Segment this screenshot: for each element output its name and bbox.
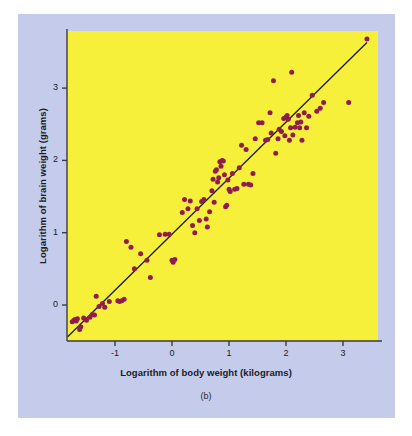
x-tick-label: 2 <box>276 348 296 358</box>
figure-caption: (b) <box>0 391 412 401</box>
figure-root: Logarithm of body weight (kilograms) Log… <box>0 0 412 436</box>
x-tick-label: 1 <box>219 348 239 358</box>
y-axis-title: Logarithm of brain weight (grams) <box>36 56 50 316</box>
y-tick-label: 0 <box>40 299 58 309</box>
x-tick-label: 0 <box>162 348 182 358</box>
y-tick-label: 1 <box>40 227 58 237</box>
x-tick-label: 3 <box>333 348 353 358</box>
x-axis-title: Logarithm of body weight (kilograms) <box>0 367 412 378</box>
y-tick-label: 2 <box>40 154 58 164</box>
x-tick-label: -1 <box>105 348 125 358</box>
y-tick-label: 3 <box>40 82 58 92</box>
